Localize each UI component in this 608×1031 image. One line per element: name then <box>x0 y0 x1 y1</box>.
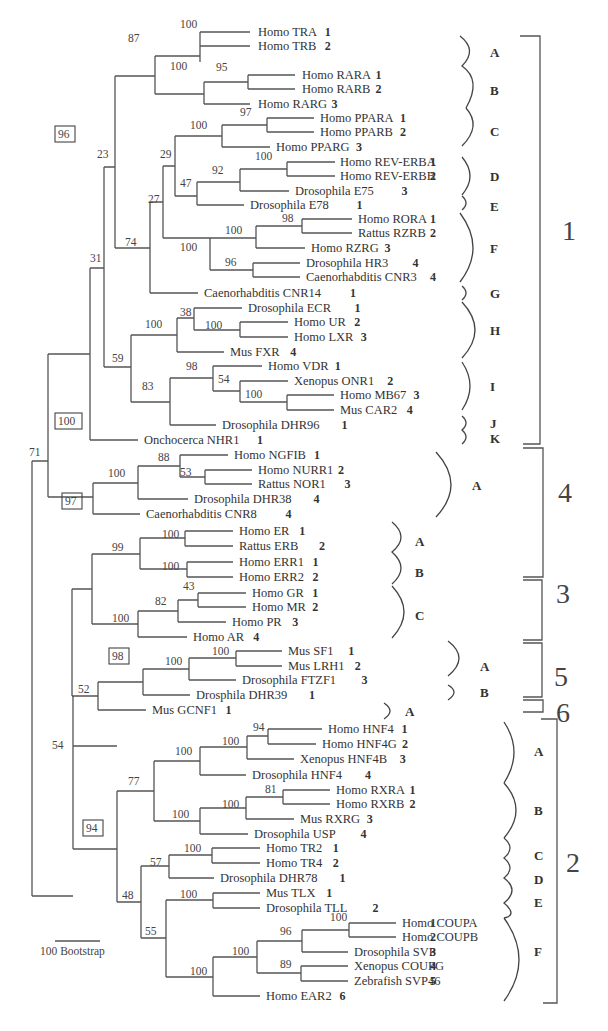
taxon-row: Homo HNF41 <box>328 722 407 736</box>
bootstrap-value: 47 <box>180 177 192 189</box>
taxon-name: Homo COUPA <box>402 916 478 930</box>
taxon-subgroup-number: 1 <box>430 916 436 930</box>
bootstrap-value: 100 <box>175 745 193 757</box>
taxon-subgroup-number: 3 <box>413 388 419 402</box>
taxon-name: Xenopus ONR1 <box>294 374 374 388</box>
taxon-name: Drosophila HR3 <box>306 256 388 270</box>
bootstrap-value: 52 <box>78 683 90 695</box>
taxon-subgroup-number: 1 <box>257 433 263 447</box>
bootstrap-value: 100 <box>245 388 263 400</box>
taxon-name: Homo ER <box>239 524 290 538</box>
taxon-name: Homo AR <box>193 630 245 644</box>
bootstrap-value: 29 <box>160 148 172 160</box>
taxon-row: Mus RXRG3 <box>300 812 373 826</box>
taxon-row: Drosophila E781 <box>250 198 362 212</box>
bootstrap-value: 100 <box>222 735 240 747</box>
subgroup-label: A <box>480 659 490 674</box>
taxon-row: Rattus RZRB2 <box>358 226 436 240</box>
bootstrap-value: 55 <box>145 925 157 937</box>
taxon-name: Homo GR <box>252 586 304 600</box>
taxon-row: Homo LXR3 <box>294 330 367 344</box>
taxon-name: Mus TLX <box>266 886 315 900</box>
taxon-row: Drosophila USP4 <box>254 827 366 841</box>
subgroup-label: D <box>490 169 499 184</box>
taxon-row: Mus TLX1 <box>266 886 332 900</box>
scale-bar: 100 Bootstrap <box>40 941 105 958</box>
taxon-row: Xenopus COUPG4 <box>354 959 444 973</box>
taxon-subgroup-number: 1 <box>325 25 331 39</box>
boxed-bootstrap-value: 96 <box>58 128 70 140</box>
taxon-subgroup-number: 6 <box>339 989 345 1003</box>
taxon-subgroup-number: 3 <box>345 477 351 491</box>
taxon-row: Homo GR1 <box>252 586 318 600</box>
taxon-subgroup-number: 2 <box>430 930 436 944</box>
subgroup-label: C <box>534 848 543 863</box>
taxon-row: Homo COUPA1 <box>402 916 478 930</box>
taxon-subgroup-number: 1 <box>326 886 332 900</box>
taxon-name: Homo RORA <box>358 212 427 226</box>
taxon-row: Rattus ERB2 <box>239 539 325 553</box>
bootstrap-value: 100 <box>330 911 348 923</box>
taxon-name: Homo NURR1 <box>258 463 333 477</box>
bootstrap-value: 98 <box>186 360 198 372</box>
taxon-subgroup-number: 3 <box>331 97 337 111</box>
taxon-row: Homo ERR22 <box>239 570 318 584</box>
taxon-subgroup-number: 3 <box>367 812 373 826</box>
group-label: 2 <box>566 847 580 878</box>
taxon-row: Homo REV-ERBA1 <box>340 155 436 169</box>
subgroup-label: G <box>490 286 500 301</box>
taxon-row: Homo AR4 <box>193 630 259 644</box>
taxon-name: Homo HNF4 <box>328 722 394 736</box>
taxon-row: Caenorhabditis CNR84 <box>146 507 291 521</box>
taxon-row: Xenopus HNF4B3 <box>300 752 406 766</box>
bootstrap-value: 100 <box>145 318 163 330</box>
taxon-subgroup-number: 4 <box>407 403 413 417</box>
subgroup-label: E <box>534 895 543 910</box>
taxon-subgroup-number: 2 <box>430 226 436 240</box>
taxon-row: Caenorhabditis CNR34 <box>306 270 436 284</box>
taxon-subgroup-number: 2 <box>333 856 339 870</box>
taxon-subgroup-number: 5 <box>430 974 436 988</box>
taxon-row: Drosophila ECR1 <box>248 301 360 315</box>
bootstrap-value: 92 <box>212 164 224 176</box>
taxon-subgroup-number: 1 <box>314 448 320 462</box>
taxon-subgroup-number: 1 <box>430 212 436 226</box>
bootstrap-value: 100 <box>180 888 198 900</box>
taxon-name: Homo NGFIB <box>234 448 306 462</box>
subgroup-label: K <box>490 431 501 446</box>
taxon-subgroup-number: 3 <box>400 752 406 766</box>
subgroup-label: A <box>405 704 415 719</box>
taxon-row: Homo REV-ERBB2 <box>340 169 436 183</box>
bootstrap-value: 59 <box>112 352 124 364</box>
taxon-subgroup-number: 1 <box>333 841 339 855</box>
taxon-row: Mus FXR4 <box>230 345 296 359</box>
taxon-name: Homo MB67 <box>340 388 406 402</box>
taxon-row: Mus CAR24 <box>340 403 413 417</box>
taxon-name: Mus CAR2 <box>340 403 397 417</box>
subgroup-label: J <box>490 416 497 431</box>
taxon-row: Drosophila FTZF13 <box>242 673 368 687</box>
subgroup-label: F <box>490 241 498 256</box>
subgroup-label: F <box>534 944 542 959</box>
subgroup-label: B <box>534 803 543 818</box>
bootstrap-value: 100 <box>190 965 208 977</box>
taxon-name: Zebrafish SVP46 <box>354 974 440 988</box>
subgroup-label: C <box>490 124 499 139</box>
taxon-row: Mus GCNF11 <box>152 703 231 717</box>
taxon-subgroup-number: 2 <box>312 570 318 584</box>
taxon-subgroup-number: 3 <box>356 140 362 154</box>
taxon-subgroup-number: 1 <box>430 155 436 169</box>
taxon-row: Homo RZRG3 <box>311 241 390 255</box>
taxon-subgroup-number: 4 <box>430 270 436 284</box>
bootstrap-value: 100 <box>108 467 126 479</box>
taxon-name: Mus FXR <box>230 345 280 359</box>
taxon-name: Homo RXRA <box>336 783 405 797</box>
taxa-labels: Homo TRA1Homo TRB2Homo RARA1Homo RARB2Ho… <box>144 25 478 1003</box>
taxon-name: Rattus ERB <box>239 539 298 553</box>
subgroup-label: A <box>490 45 500 60</box>
taxon-subgroup-number: 2 <box>387 374 393 388</box>
taxon-name: Drosophila DHR78 <box>220 871 318 885</box>
taxon-subgroup-number: 2 <box>400 125 406 139</box>
taxon-row: Drosophila SVP3 <box>354 945 436 959</box>
taxon-row: Homo MR2 <box>252 600 318 614</box>
